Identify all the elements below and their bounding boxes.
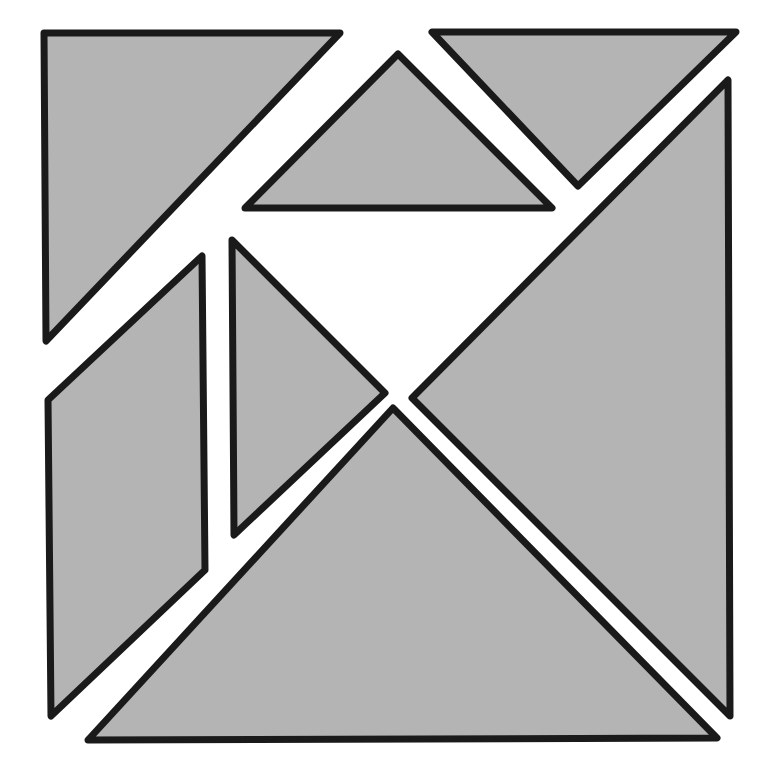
tangram-diagram: Tangram square dissection xyxy=(0,0,768,783)
tangram-canvas xyxy=(0,0,768,783)
